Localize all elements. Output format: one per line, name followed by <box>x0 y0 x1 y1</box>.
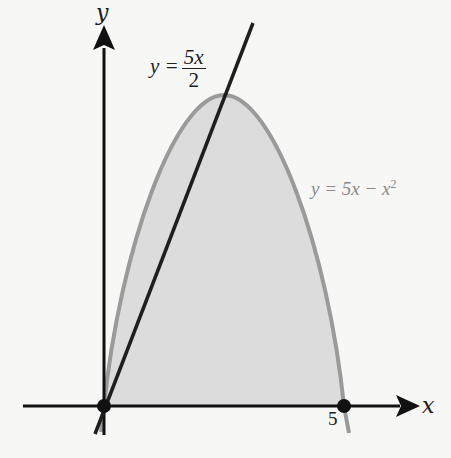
point-x5 <box>337 399 351 413</box>
line-equation-label: y =5x2 <box>150 46 206 91</box>
line-label-denominator: 2 <box>188 69 199 91</box>
y-axis-label: y <box>96 0 108 25</box>
line-label-fraction: 5x2 <box>182 46 206 91</box>
y-axis-arrow-icon <box>93 25 115 50</box>
line-label-lhs: y = <box>150 54 179 78</box>
origin-point <box>97 399 111 413</box>
diagram-canvas <box>0 0 451 458</box>
parabola-equation-label: y = 5x − x2 <box>311 177 396 200</box>
parabola-label-text: y = 5x − x <box>311 178 390 199</box>
tick-label-5: 5 <box>328 408 338 430</box>
shaded-region <box>104 95 344 406</box>
parabola-label-exponent: 2 <box>390 177 396 191</box>
x-axis-label: x <box>422 393 434 418</box>
line-label-numerator: 5x <box>182 46 206 69</box>
